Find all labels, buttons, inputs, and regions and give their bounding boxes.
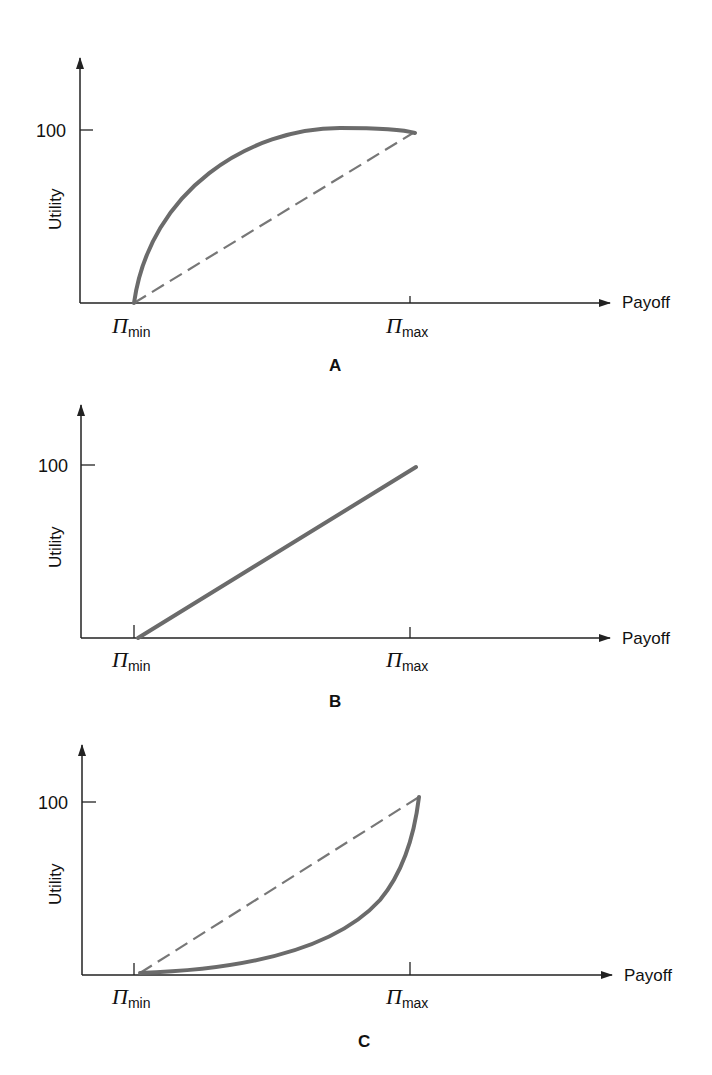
chart-a: 100 Utility Payoff Πmin Πmax A <box>36 58 670 375</box>
x-tick-min-label: Πmin <box>111 313 150 340</box>
y-axis-label: Utility <box>46 526 65 568</box>
linear-utility-line <box>138 467 416 638</box>
utility-charts: 100 Utility Payoff Πmin Πmax A 100 Utili… <box>0 0 712 1075</box>
x-axis-label: Payoff <box>622 293 670 312</box>
y-tick-label: 100 <box>36 121 66 141</box>
dashed-reference-line <box>140 797 419 973</box>
x-axis-label: Payoff <box>622 629 670 648</box>
y-tick-label: 100 <box>38 793 68 813</box>
x-tick-min-label: Πmin <box>111 984 150 1011</box>
x-tick-max-label: Πmax <box>385 984 428 1011</box>
y-tick-label: 100 <box>38 456 68 476</box>
x-tick-min-label: Πmin <box>111 647 150 674</box>
dashed-reference-line <box>134 133 413 303</box>
y-axis-label: Utility <box>46 188 65 230</box>
chart-c: 100 Utility Payoff Πmin Πmax C <box>38 745 672 1051</box>
y-axis-label: Utility <box>46 863 65 905</box>
panel-label-b: B <box>329 692 341 711</box>
panel-label-a: A <box>329 356 341 375</box>
chart-b: 100 Utility Payoff Πmin Πmax B <box>38 405 670 711</box>
x-tick-max-label: Πmax <box>385 313 428 340</box>
x-axis-label: Payoff <box>624 966 672 985</box>
x-tick-max-label: Πmax <box>385 647 428 674</box>
panel-label-c: C <box>358 1032 370 1051</box>
